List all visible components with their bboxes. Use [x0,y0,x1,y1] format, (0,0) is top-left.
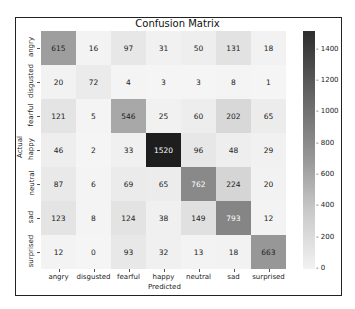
y-tick-mark [37,218,40,219]
heatmap-cell: 18 [251,31,286,65]
heatmap-cell: 33 [111,133,146,167]
heatmap-cell: 60 [181,99,216,133]
heatmap-cell: 20 [41,65,76,99]
heatmap-cell: 65 [251,99,286,133]
heatmap-cell: 13 [181,235,216,269]
y-tick-mark [37,150,40,151]
heatmap-cell: 6 [76,167,111,201]
heatmap-cell: 615 [41,31,76,65]
x-axis-title: Predicted [148,283,181,291]
y-tick-label: fearful [27,104,35,127]
heatmap-cell: 69 [111,167,146,201]
y-tick-label: happy [27,138,35,160]
y-tick-mark [37,252,40,253]
colorbar-tick-label: - 400 [316,201,334,209]
colorbar-tick-label: - 200 [316,233,334,241]
colorbar-tick-label: - 1000 [316,107,339,115]
heatmap-cell: 48 [216,133,251,167]
heatmap-cell: 202 [216,99,251,133]
heatmap-cell: 149 [181,201,216,235]
heatmap-cell: 97 [111,31,146,65]
colorbar [303,31,315,269]
heatmap-cell: 8 [216,65,251,99]
colorbar-tick-label: - 0 [316,264,325,272]
heatmap-cell: 8 [76,201,111,235]
heatmap-cell: 123 [41,201,76,235]
y-tick-mark [37,82,40,83]
x-tick-mark [164,269,165,272]
heatmap-cell: 32 [146,235,181,269]
heatmap-cell: 762 [181,167,216,201]
heatmap-grid: 6151697315013118207243381121554625602026… [41,31,286,269]
heatmap-cell: 16 [76,31,111,65]
heatmap-cell: 12 [251,201,286,235]
heatmap-cell: 5 [76,99,111,133]
heatmap-cell: 25 [146,99,181,133]
y-tick-label: surprised [27,235,35,268]
y-tick-mark [37,184,40,185]
heatmap-cell: 0 [76,235,111,269]
heatmap-cell: 3 [146,65,181,99]
heatmap-cell: 38 [146,201,181,235]
y-tick-label: neutral [27,170,35,195]
heatmap-cell: 793 [216,201,251,235]
heatmap-cell: 96 [181,133,216,167]
heatmap-cell: 1520 [146,133,181,167]
heatmap-cell: 224 [216,167,251,201]
heatmap-cell: 31 [146,31,181,65]
colorbar-tick-label: - 1200 [316,76,339,84]
heatmap-cell: 18 [216,235,251,269]
heatmap-cell: 121 [41,99,76,133]
colorbar-tick-label: - 1400 [316,45,339,53]
x-tick-mark [199,269,200,272]
x-tick-mark [269,269,270,272]
heatmap-cell: 20 [251,167,286,201]
heatmap-cell: 93 [111,235,146,269]
heatmap-cell: 29 [251,133,286,167]
heatmap-cell: 546 [111,99,146,133]
heatmap-cell: 2 [76,133,111,167]
heatmap-cell: 124 [111,201,146,235]
y-tick-label: angry [27,37,35,57]
y-axis-title: Actual [16,136,24,158]
y-tick-mark [37,48,40,49]
heatmap-cell: 50 [181,31,216,65]
heatmap-cell: 4 [111,65,146,99]
x-tick-mark [129,269,130,272]
heatmap-cell: 663 [251,235,286,269]
heatmap-cell: 3 [181,65,216,99]
colorbar-tick-label: - 800 [316,139,334,147]
heatmap-cell: 65 [146,167,181,201]
chart-title: Confusion Matrix [0,17,355,29]
heatmap-cell: 72 [76,65,111,99]
y-tick-label: disgusted [27,64,35,98]
x-tick-mark [234,269,235,272]
x-tick-mark [94,269,95,272]
x-tick-label: surprised [247,273,291,281]
y-tick-label: sad [27,211,35,223]
heatmap-cell: 1 [251,65,286,99]
heatmap-cell: 131 [216,31,251,65]
heatmap-cell: 46 [41,133,76,167]
heatmap-cell: 12 [41,235,76,269]
heatmap-cell: 87 [41,167,76,201]
y-tick-mark [37,116,40,117]
x-tick-mark [59,269,60,272]
colorbar-tick-label: - 600 [316,170,334,178]
